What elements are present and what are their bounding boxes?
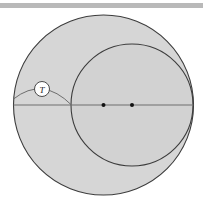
geometry-diagram: T bbox=[0, 0, 203, 210]
center-dot-right bbox=[130, 103, 134, 107]
label-T-group: T bbox=[35, 82, 50, 97]
figure-root: T bbox=[0, 0, 203, 210]
center-dot-left bbox=[102, 103, 106, 107]
